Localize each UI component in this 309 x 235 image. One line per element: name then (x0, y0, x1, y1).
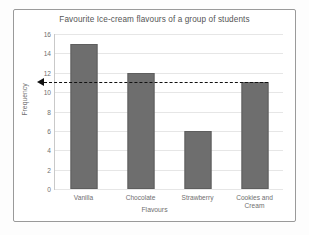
bar-group: Vanilla (55, 34, 112, 189)
bar (241, 82, 268, 189)
chart-screenshot: Favourite Ice-cream flavours of a group … (0, 0, 309, 235)
y-axis-tick-label: 16 (44, 31, 51, 38)
bar (127, 73, 154, 189)
x-axis-tick-label: Strawberry (169, 194, 227, 202)
bar (184, 131, 211, 189)
annotation-dashed-line (44, 82, 268, 83)
plot-area: 0246810121416 VanillaChocolateStrawberry… (55, 34, 283, 189)
chart-title: Favourite Ice-cream flavours of a group … (14, 15, 295, 24)
gridline (55, 189, 283, 190)
y-axis-tick-label: 4 (47, 147, 51, 154)
y-axis-tick-label: 14 (44, 50, 51, 57)
y-axis-tick-label: 12 (44, 69, 51, 76)
y-axis-title: Frequency (21, 83, 28, 115)
chart-frame: Favourite Ice-cream flavours of a group … (13, 9, 296, 222)
x-axis-tick-label: Vanilla (55, 194, 113, 202)
bar-group: Strawberry (169, 34, 226, 189)
y-axis-tick-label: 10 (44, 89, 51, 96)
bar-group: Chocolate (112, 34, 169, 189)
x-axis-tick-label: Chocolate (112, 194, 170, 202)
annotation-arrowhead-icon (37, 78, 44, 86)
y-axis-tick-label: 6 (47, 127, 51, 134)
bar (70, 44, 97, 189)
x-axis-tick-label: Cookies and Cream (226, 194, 284, 210)
bar-series: VanillaChocolateStrawberryCookies and Cr… (55, 34, 283, 189)
y-axis-tick-label: 0 (47, 186, 51, 193)
y-axis-tick-label: 8 (47, 108, 51, 115)
bar-group: Cookies and Cream (226, 34, 283, 189)
y-axis-tick-label: 2 (47, 166, 51, 173)
